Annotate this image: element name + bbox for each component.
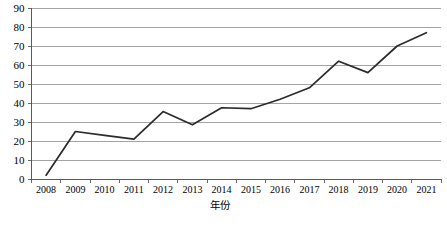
gridlines [32, 8, 442, 160]
y-tick-label: 90 [14, 2, 26, 14]
x-axis-title: 年份 [210, 199, 231, 211]
y-tick-label: 10 [14, 154, 26, 166]
x-tick-label: 2011 [124, 184, 144, 195]
x-tick-label: 2018 [329, 184, 349, 195]
x-tick-label: 2017 [299, 184, 319, 195]
y-tick-label: 0 [19, 173, 25, 185]
x-tick-label: 2019 [358, 184, 378, 195]
x-tick-label: 2012 [153, 184, 173, 195]
x-tick-label: 2010 [95, 184, 115, 195]
y-tick-label: 70 [14, 40, 26, 52]
x-tick-label: 2021 [416, 184, 436, 195]
x-tick-label: 2013 [182, 184, 202, 195]
y-tick-label: 30 [14, 116, 26, 128]
y-tick-label: 50 [14, 78, 26, 90]
x-tick-label: 2008 [36, 184, 56, 195]
x-tick-label: 2014 [212, 184, 232, 195]
x-tick-label: 2009 [65, 184, 85, 195]
data-series-line [46, 33, 426, 176]
line-chart: 0102030405060708090 20082009201020112012… [0, 0, 447, 228]
chart-canvas: 0102030405060708090 20082009201020112012… [0, 0, 447, 228]
x-tick-label: 2020 [387, 184, 407, 195]
x-axis-labels: 2008200920102011201220132014201520162017… [36, 184, 436, 195]
y-tick-label: 40 [14, 97, 26, 109]
y-tick-label: 80 [14, 21, 26, 33]
y-axis-tickmarks [28, 8, 32, 179]
y-axis-labels: 0102030405060708090 [14, 2, 26, 185]
y-tick-label: 60 [14, 59, 26, 71]
x-tick-label: 2015 [241, 184, 261, 195]
x-tick-label: 2016 [270, 184, 290, 195]
y-tick-label: 20 [14, 135, 26, 147]
